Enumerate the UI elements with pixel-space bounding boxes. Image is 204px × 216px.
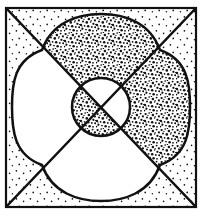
line-drawing-figure: Quatrefoil in square with central circle…: [0, 0, 204, 216]
figure-canvas: Quatrefoil in square with central circle…: [0, 0, 204, 216]
